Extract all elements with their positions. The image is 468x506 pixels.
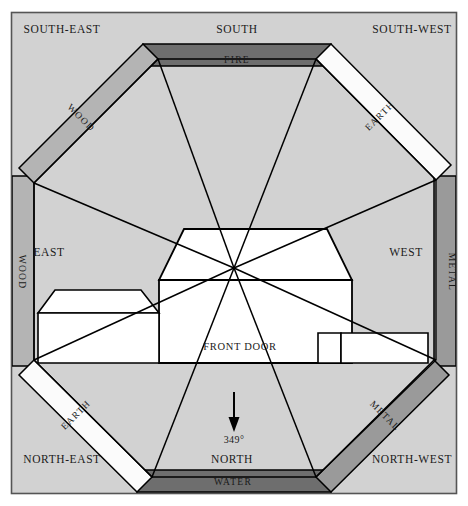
compass-label-east: EAST [33, 246, 64, 258]
bagua-diagram-container: SOUTH-EAST SOUTH SOUTH-WEST EAST WEST NO… [0, 0, 468, 506]
left-wing-body [38, 313, 159, 363]
right-extension-large [341, 333, 428, 363]
compass-label-south-west: SOUTH-WEST [372, 23, 451, 35]
compass-label-south: SOUTH [216, 23, 257, 35]
element-label-water: WATER [214, 477, 252, 487]
compass-label-south-east: SOUTH-EAST [24, 23, 101, 35]
right-extension-small [318, 333, 341, 363]
front-door-label: FRONT DOOR [203, 341, 277, 352]
element-label-fire: FIRE [224, 55, 250, 65]
element-label-metal-west: METAL [447, 253, 457, 291]
compass-label-north-west: NORTH-WEST [372, 453, 452, 465]
compass-label-north: NORTH [211, 453, 253, 465]
left-wing-roof [38, 290, 159, 313]
compass-label-north-east: NORTH-EAST [23, 453, 101, 465]
bagua-compass-floorplan-svg: SOUTH-EAST SOUTH SOUTH-WEST EAST WEST NO… [0, 0, 468, 506]
compass-label-west: WEST [389, 246, 423, 258]
main-house-roof [159, 229, 352, 280]
element-label-wood-east: WOOD [17, 255, 27, 290]
bearing-label: 349° [224, 434, 245, 445]
